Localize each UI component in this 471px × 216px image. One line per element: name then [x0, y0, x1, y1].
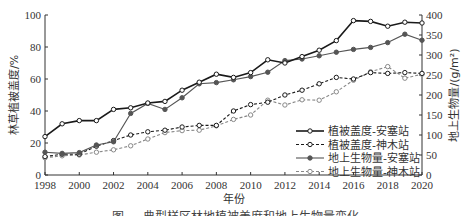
data-point-marker — [248, 102, 252, 106]
data-point-marker — [403, 32, 407, 36]
data-point-marker — [420, 21, 424, 25]
left-y-tick-label: 40 — [30, 105, 42, 117]
data-point-marker — [351, 47, 355, 51]
data-point-marker — [300, 98, 304, 102]
data-point-marker — [180, 96, 184, 100]
data-point-marker — [386, 64, 390, 68]
data-point-marker — [214, 80, 218, 84]
x-tick-label: 2008 — [205, 179, 228, 191]
data-point-marker — [351, 77, 355, 81]
x-tick-label: 2020 — [411, 179, 434, 191]
left-y-tick-label: 60 — [30, 73, 42, 85]
data-point-marker — [128, 106, 132, 110]
x-tick-label: 2000 — [68, 179, 91, 191]
data-point-marker — [60, 122, 64, 126]
legend-marker — [308, 142, 312, 146]
data-point-marker — [283, 103, 287, 107]
legend-marker — [308, 129, 312, 133]
x-axis-title: 年份 — [223, 192, 245, 206]
data-point-marker — [214, 72, 218, 76]
x-tick-label: 2010 — [240, 179, 263, 191]
data-point-marker — [403, 70, 407, 74]
data-point-marker — [231, 109, 235, 113]
data-point-marker — [386, 24, 390, 28]
data-point-marker — [94, 150, 98, 154]
data-point-marker — [180, 88, 184, 92]
data-point-marker — [420, 38, 424, 42]
data-point-marker — [146, 130, 150, 134]
data-point-marker — [111, 107, 115, 111]
legend-label: 地上生物量-安塞站 — [328, 151, 420, 165]
data-point-marker — [128, 111, 132, 115]
x-tick-label: 2002 — [103, 179, 125, 191]
data-point-marker — [111, 140, 115, 144]
x-tick-label: 1998 — [34, 179, 57, 191]
data-point-marker — [283, 61, 287, 65]
data-point-marker — [386, 40, 390, 44]
right-y-tick-label: 150 — [426, 109, 443, 121]
right-y-tick-label: 300 — [426, 49, 443, 61]
x-tick-label: 2014 — [308, 179, 331, 191]
data-point-marker — [334, 38, 338, 42]
data-point-marker — [317, 82, 321, 86]
data-point-marker — [180, 125, 184, 129]
data-point-marker — [146, 101, 150, 105]
data-point-marker — [163, 107, 167, 111]
data-point-marker — [334, 90, 338, 94]
data-point-marker — [43, 150, 47, 154]
right-y-tick-label: 400 — [426, 9, 443, 21]
line-chart: 0204060801000501001502002503003504001998… — [0, 0, 471, 216]
data-point-marker — [128, 144, 132, 148]
data-point-marker — [248, 70, 252, 74]
data-point-marker — [403, 20, 407, 24]
data-point-marker — [266, 58, 270, 62]
left-y-tick-label: 20 — [30, 137, 42, 149]
data-point-marker — [248, 113, 252, 117]
right-y-tick-label: 350 — [426, 29, 443, 41]
data-point-marker — [317, 48, 321, 52]
data-point-marker — [403, 76, 407, 80]
data-point-marker — [317, 54, 321, 58]
data-point-marker — [386, 71, 390, 75]
right-y-tick-label: 250 — [426, 69, 443, 81]
data-point-marker — [368, 45, 372, 49]
x-tick-label: 2004 — [137, 179, 160, 191]
data-point-marker — [214, 123, 218, 127]
data-point-marker — [300, 54, 304, 58]
data-point-marker — [231, 117, 235, 121]
data-point-marker — [334, 50, 338, 54]
x-tick-label: 2018 — [377, 179, 400, 191]
legend-label: 地上生物量-神木站 — [328, 165, 420, 179]
data-point-marker — [146, 137, 150, 141]
data-point-marker — [60, 151, 64, 155]
data-point-marker — [197, 80, 201, 84]
legend-marker — [308, 169, 312, 173]
data-point-marker — [420, 71, 424, 75]
data-point-marker — [231, 75, 235, 79]
data-point-marker — [77, 118, 81, 122]
right-y-tick-label: 100 — [426, 129, 443, 141]
legend-label: 植被盖度-安塞站 — [328, 124, 409, 138]
data-point-marker — [94, 118, 98, 122]
data-point-marker — [266, 100, 270, 104]
data-point-marker — [368, 19, 372, 23]
figure-caption: 图 … 典型样区林地植被盖度和地上生物量变化 — [0, 207, 471, 216]
left-y-axis-title: 林草植被盖度/% — [7, 55, 21, 135]
x-tick-label: 2016 — [342, 179, 365, 191]
x-tick-label: 2012 — [274, 179, 296, 191]
data-point-marker — [111, 148, 115, 152]
left-y-tick-label: 100 — [25, 9, 42, 21]
legend-label: 植被盖度-神木站 — [328, 138, 409, 152]
data-point-marker — [94, 143, 98, 147]
right-y-axis-title: 地上生物量/(g/m²) — [447, 48, 461, 141]
data-point-marker — [300, 88, 304, 92]
legend: 植被盖度-安塞站植被盖度-神木站地上生物量-安塞站地上生物量-神木站 — [296, 124, 420, 179]
data-point-marker — [283, 93, 287, 97]
data-point-marker — [197, 128, 201, 132]
data-point-marker — [128, 133, 132, 137]
legend-marker — [308, 156, 312, 160]
x-tick-label: 2006 — [171, 179, 194, 191]
data-point-marker — [43, 134, 47, 138]
data-point-marker — [351, 18, 355, 22]
data-point-marker — [266, 70, 270, 74]
